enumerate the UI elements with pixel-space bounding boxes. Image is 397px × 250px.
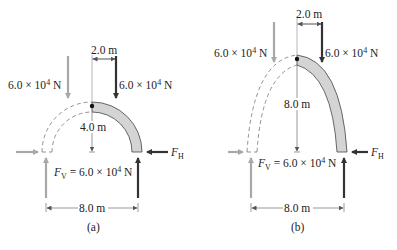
offset-label: 2.0 m	[296, 8, 322, 20]
span-label: 8.0 m	[284, 202, 310, 214]
span-label: 8.0 m	[79, 202, 105, 214]
fv-label: FV = 6.0 × 104 N	[53, 165, 133, 181]
fv-label: FV = 6.0 × 104 N	[257, 156, 337, 172]
figure-a: 4.0 m 2.0 m 6.0 × 104 N 6.0 × 104 N FH F…	[8, 44, 184, 234]
fh-label: FH	[170, 146, 184, 161]
load-left-label: 6.0 × 104 N	[214, 46, 268, 59]
load-right-label: 6.0 × 104 N	[325, 46, 379, 59]
load-left-label: 6.0 × 104 N	[8, 78, 62, 91]
caption-a: (a)	[87, 221, 100, 234]
offset-label: 2.0 m	[91, 44, 117, 56]
height-label: 8.0 m	[284, 98, 310, 110]
arch-diagrams: 4.0 m 2.0 m 6.0 × 104 N 6.0 × 104 N FH F…	[0, 0, 397, 250]
figure-b: 8.0 m 2.0 m 6.0 × 104 N 6.0 × 104 N FH F…	[214, 8, 384, 234]
crown-pin	[295, 57, 299, 61]
caption-b: (b)	[291, 221, 305, 234]
fh-label: FH	[370, 146, 384, 161]
load-right-label: 6.0 × 104 N	[119, 78, 173, 91]
height-label: 4.0 m	[80, 121, 106, 133]
crown-pin	[90, 104, 94, 108]
